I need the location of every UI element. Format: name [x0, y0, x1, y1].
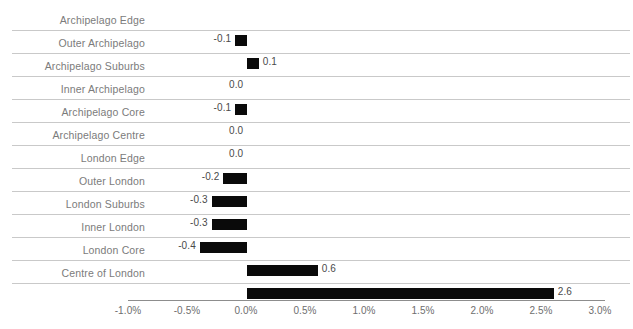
gridline	[12, 237, 630, 238]
bar-value-label: 0.1	[263, 56, 277, 67]
bar	[247, 58, 259, 69]
category-label: Archipelago Suburbs	[45, 60, 145, 72]
x-tick-label: 3.0%	[588, 305, 611, 316]
category-label: London Suburbs	[66, 198, 145, 210]
bar-value-label: -0.2	[202, 171, 220, 182]
gridline	[12, 191, 630, 192]
category-label: Outer Archipelago	[58, 37, 145, 49]
x-tick-label: -0.5%	[174, 305, 201, 316]
gridline	[12, 30, 630, 31]
bar	[200, 242, 247, 253]
chart-row: Centre of London2.6	[0, 283, 633, 306]
bar-value-label: 0.0	[229, 79, 243, 90]
bar-value-label: -0.1	[214, 102, 232, 113]
gridline	[12, 76, 630, 77]
x-tick-label: -1.0%	[115, 305, 142, 316]
x-axis-line	[128, 300, 605, 301]
category-label: Archipelago Centre	[52, 129, 145, 141]
gridline	[12, 168, 630, 169]
gridline	[12, 145, 630, 146]
bar	[247, 288, 554, 299]
bar-value-label: 2.6	[558, 286, 572, 297]
bar	[223, 173, 247, 184]
x-tick-label: 1.5%	[411, 305, 434, 316]
gridline	[12, 283, 630, 284]
category-label: Inner London	[81, 221, 145, 233]
category-label: London Edge	[81, 152, 145, 164]
bar-value-label: -0.4	[178, 240, 196, 251]
category-label: London Core	[83, 244, 145, 256]
bar-chart: Archipelago Edge-0.1Outer Archipelago0.1…	[0, 0, 633, 329]
bar-value-label: -0.1	[214, 33, 232, 44]
gridline	[12, 122, 630, 123]
category-label: Inner Archipelago	[61, 83, 145, 95]
bar	[247, 265, 318, 276]
bar-value-label: 0.6	[322, 263, 336, 274]
x-tick-label: 2.0%	[470, 305, 493, 316]
x-tick-label: 0.0%	[234, 305, 257, 316]
gridline	[12, 53, 630, 54]
x-tick-label: 1.0%	[352, 305, 375, 316]
gridline	[12, 260, 630, 261]
bar-value-label: -0.3	[190, 194, 208, 205]
bar-value-label: 0.0	[229, 148, 243, 159]
bar-value-label: -0.3	[190, 217, 208, 228]
bar	[235, 35, 247, 46]
bar	[212, 196, 247, 207]
bar-value-label: 0.0	[229, 125, 243, 136]
x-tick-label: 0.5%	[293, 305, 316, 316]
category-label: Centre of London	[61, 267, 145, 279]
gridline	[12, 214, 630, 215]
category-label: Archipelago Edge	[60, 14, 145, 26]
category-label: Archipelago Core	[61, 106, 145, 118]
bar	[235, 104, 247, 115]
category-label: Outer London	[79, 175, 145, 187]
gridline	[12, 99, 630, 100]
x-tick-label: 2.5%	[529, 305, 552, 316]
bar	[212, 219, 247, 230]
